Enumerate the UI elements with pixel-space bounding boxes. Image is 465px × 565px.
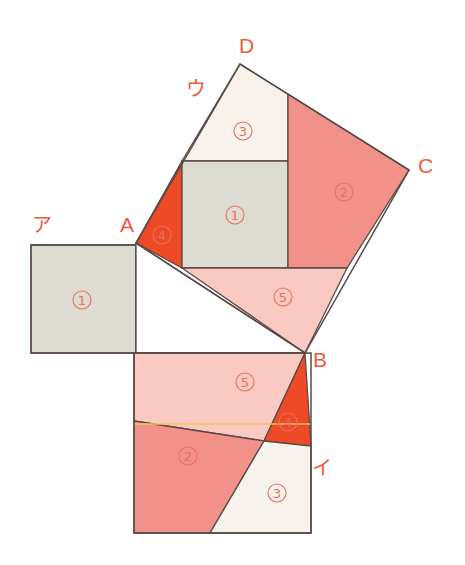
geometry-figure: A B C D ア イ ウ 1 1 2	[0, 0, 465, 565]
piece-badge-text: 3	[273, 486, 281, 501]
vertex-label-c: C	[418, 154, 433, 177]
vertex-label-d: D	[239, 34, 254, 57]
piece-badge-text: 3	[239, 124, 247, 139]
kana-label-u: ウ	[186, 77, 206, 101]
kana-label-i: イ	[312, 456, 332, 480]
figure-root: A B C D ア イ ウ 1 1 2	[0, 0, 465, 565]
piece-badge-text: 5	[279, 290, 287, 305]
piece-badge-text: 1	[231, 208, 239, 223]
vertex-label-b: B	[313, 348, 327, 371]
piece-badge-text: 2	[184, 449, 192, 464]
piece-badge-text: 1	[78, 293, 86, 308]
piece-badge-text: 5	[241, 375, 249, 390]
piece-badge-text: 2	[340, 185, 348, 200]
piece-badge-text: 4	[284, 415, 292, 430]
bottom-square-group	[134, 353, 311, 533]
kana-label-a: ア	[32, 213, 52, 237]
vertex-label-a: A	[120, 213, 134, 236]
piece-badge-text: 4	[158, 228, 166, 243]
tilted-square-piece-2	[288, 94, 409, 268]
